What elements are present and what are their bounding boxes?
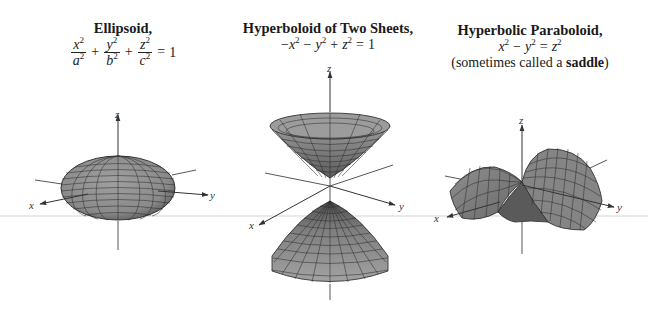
saddle-plot: z bbox=[433, 114, 622, 254]
lower-sheet bbox=[272, 201, 388, 283]
upper-sheet bbox=[270, 113, 390, 178]
x-axis-label: x bbox=[248, 219, 254, 231]
ellipsoid-surface bbox=[61, 156, 175, 220]
x-axis-back bbox=[35, 180, 62, 184]
y-axis bbox=[330, 186, 395, 205]
z-axis-label: z bbox=[114, 108, 120, 120]
x-axis-label: x bbox=[28, 199, 34, 211]
z-axis-label: z bbox=[326, 62, 332, 74]
x-axis-label: x bbox=[433, 212, 439, 224]
saddle-surface bbox=[450, 148, 602, 230]
ellipsoid-plot: z y x bbox=[28, 108, 215, 250]
y-axis-label: y bbox=[398, 200, 404, 212]
y-axis-label: y bbox=[616, 201, 622, 213]
surfaces-figure: z y x z bbox=[0, 0, 648, 319]
y-axis-back bbox=[590, 160, 607, 168]
z-axis-label: z bbox=[518, 114, 524, 126]
y-axis-back bbox=[172, 170, 196, 175]
hyperboloid-plot: z bbox=[248, 62, 404, 300]
y-axis-label: y bbox=[209, 189, 215, 201]
